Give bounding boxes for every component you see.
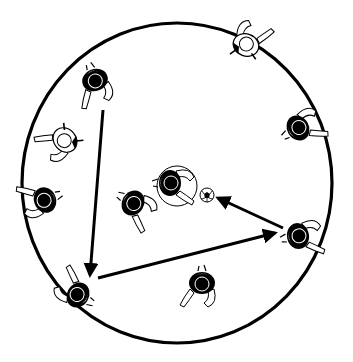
player-left-upper-icon [32, 114, 84, 165]
pass-1-arrow [90, 110, 103, 275]
player-center-icon [152, 170, 194, 205]
player-top-left-icon [68, 59, 115, 110]
player-right-icon [278, 219, 325, 261]
pass-arrows [90, 110, 283, 278]
player-bottom-icon [180, 265, 215, 307]
pass-3-arrow [218, 198, 283, 228]
drill-diagram [0, 0, 353, 362]
pass-2-arrow [98, 233, 275, 278]
player-center-left-icon [106, 183, 160, 234]
soccer-ball-icon [200, 188, 214, 202]
player-top-right-icon [229, 18, 275, 66]
